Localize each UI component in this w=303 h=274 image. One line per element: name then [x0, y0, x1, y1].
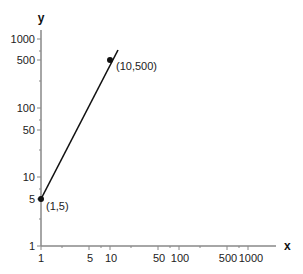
y-tick-label-5: 5	[29, 193, 35, 205]
x-tick-label-10: 10	[105, 252, 117, 264]
y-tick-label-10: 10	[23, 171, 35, 183]
x-axis-title: x	[284, 239, 291, 253]
log-log-chart: 1000 500 100 50 10 5 1 1 5 10 50 100 500…	[0, 0, 303, 274]
x-tick-label-1: 1	[38, 252, 44, 264]
data-point-10-500	[107, 57, 113, 63]
y-axis-title: y	[38, 11, 45, 25]
y-tick-label-1000: 1000	[11, 33, 35, 45]
y-tick-label-1: 1	[29, 240, 35, 252]
x-tick-label-50: 50	[153, 252, 165, 264]
x-tick-label-100: 100	[171, 252, 189, 264]
x-tick-label-500: 500	[219, 252, 237, 264]
data-point-1-5	[38, 196, 44, 202]
y-tick-label-500: 500	[17, 54, 35, 66]
point-label-10-500: (10,500)	[116, 60, 157, 72]
y-tick-label-50: 50	[23, 124, 35, 136]
y-tick-label-100: 100	[17, 102, 35, 114]
x-tick-label-1000: 1000	[239, 252, 263, 264]
point-label-1-5: (1,5)	[46, 200, 69, 212]
data-line	[41, 50, 118, 199]
x-tick-label-5: 5	[87, 252, 93, 264]
